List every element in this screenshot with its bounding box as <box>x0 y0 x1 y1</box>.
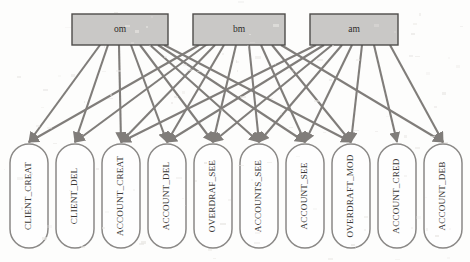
diagram-canvas: ombmam CLIENT_CREATCLIENT_DELACCOUNT_CRE… <box>0 0 470 262</box>
edge-am-to-ACCOUNT_CRED <box>374 45 397 142</box>
permission-label-CLIENT_CREAT: CLIENT_CREAT <box>23 162 33 230</box>
permission-label-CLIENT_DEL: CLIENT_DEL <box>69 167 79 224</box>
edge-om-to-CLIENT_DEL <box>75 45 108 142</box>
permissions-layer: CLIENT_CREATCLIENT_DELACCOUNT_CREATACCOU… <box>10 144 462 248</box>
role-node-am[interactable]: am <box>310 14 398 45</box>
permission-label-ACCOUNT_CRED: ACCOUNT_CRED <box>391 158 401 234</box>
role-node-bm[interactable]: bm <box>193 14 285 45</box>
edge-om-to-CLIENT_CREAT <box>29 45 100 142</box>
edge-om-to-ACCOUNT_CREAT <box>119 45 121 142</box>
edge-am-to-ACCOUNT_DEB <box>390 45 443 142</box>
edges-layer <box>29 45 443 142</box>
role-label-om: om <box>114 24 127 34</box>
permission-node-OVERDRAFT_MOD[interactable]: OVERDRAFT_MOD <box>332 144 370 248</box>
graph-svg: ombmam CLIENT_CREATCLIENT_DELACCOUNT_CRE… <box>0 0 470 262</box>
edge-bm-to-ACCOUNT_DEB <box>281 45 443 142</box>
permission-label-OVERDRAFT_MOD: OVERDRAFT_MOD <box>345 154 355 237</box>
permission-node-ACCOUNT_DEL[interactable]: ACCOUNT_DEL <box>148 144 186 248</box>
permission-node-ACCOUNT_SEE[interactable]: ACCOUNT_SEE <box>286 144 324 248</box>
permission-label-ACCOUNTS_SEE: ACCOUNTS_SEE <box>253 160 263 232</box>
permission-label-ACCOUNT_SEE: ACCOUNT_SEE <box>299 162 309 229</box>
role-label-bm: bm <box>233 24 246 34</box>
permission-label-OVERDRAF_SEE: OVERDRAF_SEE <box>207 160 217 232</box>
edge-bm-to-CLIENT_CREAT <box>29 45 199 142</box>
role-node-om[interactable]: om <box>72 14 168 45</box>
permission-label-ACCOUNT_DEL: ACCOUNT_DEL <box>161 162 171 231</box>
permission-label-ACCOUNT_DEB: ACCOUNT_DEB <box>437 161 447 230</box>
roles-layer: ombmam <box>72 14 398 45</box>
permission-node-OVERDRAF_SEE[interactable]: OVERDRAF_SEE <box>194 144 232 248</box>
permission-node-CLIENT_DEL[interactable]: CLIENT_DEL <box>56 144 94 248</box>
edge-bm-to-CLIENT_DEL <box>75 45 206 142</box>
permission-node-ACCOUNT_CRED[interactable]: ACCOUNT_CRED <box>378 144 416 248</box>
role-label-am: am <box>348 24 360 34</box>
edge-om-to-ACCOUNTS_SEE <box>150 45 259 142</box>
permission-node-ACCOUNTS_SEE[interactable]: ACCOUNTS_SEE <box>240 144 278 248</box>
permission-node-ACCOUNT_DEB[interactable]: ACCOUNT_DEB <box>424 144 462 248</box>
permission-node-ACCOUNT_CREAT[interactable]: ACCOUNT_CREAT <box>102 144 140 248</box>
permission-node-CLIENT_CREAT[interactable]: CLIENT_CREAT <box>10 144 48 248</box>
permission-label-ACCOUNT_CREAT: ACCOUNT_CREAT <box>115 156 125 236</box>
